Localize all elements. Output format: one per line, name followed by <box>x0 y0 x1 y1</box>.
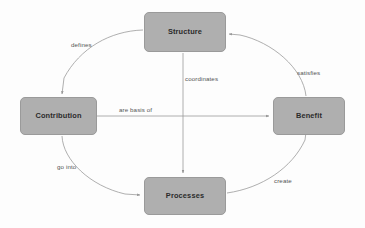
node-benefit-label: Benefit <box>296 112 322 119</box>
edge-label-go-into: go into <box>57 164 76 170</box>
edge-label-coordinates: coordinates <box>185 76 218 82</box>
edge-label-create: create <box>274 178 292 184</box>
edge-label-satisfies: satisfies <box>297 70 320 76</box>
edge-label-defines: defines <box>71 42 92 48</box>
edge-create-path <box>227 132 306 193</box>
edge-satisfies-path <box>229 34 306 96</box>
node-contribution-label: Contribution <box>35 112 81 119</box>
node-processes[interactable]: Processes <box>144 177 226 215</box>
node-contribution[interactable]: Contribution <box>20 97 97 135</box>
edge-label-are-basis-of: are basis of <box>119 107 152 113</box>
cycle-diagram: Structure Contribution Benefit Processes… <box>0 0 365 228</box>
edge-defines-path <box>62 30 143 94</box>
node-processes-label: Processes <box>166 192 204 199</box>
node-structure-label: Structure <box>168 28 202 35</box>
node-structure[interactable]: Structure <box>144 12 226 52</box>
node-benefit[interactable]: Benefit <box>273 97 345 135</box>
